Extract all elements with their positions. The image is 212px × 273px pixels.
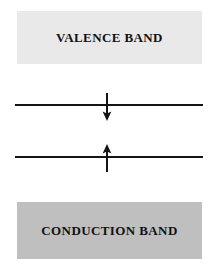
valence-band-label: VALENCE BAND (56, 30, 163, 46)
spin-up-arrow-icon (99, 143, 115, 173)
valence-band-box: VALENCE BAND (17, 11, 202, 64)
spin-down-arrow-icon (99, 92, 115, 122)
conduction-band-label: CONDUCTION BAND (41, 223, 177, 239)
conduction-band-box: CONDUCTION BAND (17, 202, 202, 259)
energy-band-diagram: VALENCE BAND CONDUCTION BAND (0, 0, 212, 273)
